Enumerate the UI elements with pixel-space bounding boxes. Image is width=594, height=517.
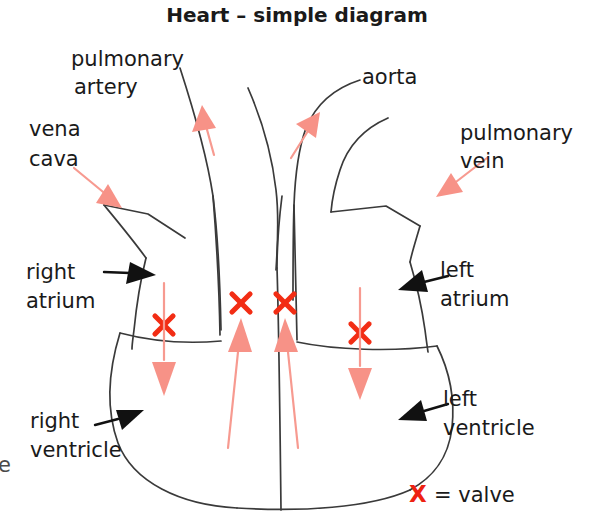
legend-valve-text: = valve — [434, 483, 515, 507]
label-right-atrium-line2: atrium — [26, 289, 95, 313]
label-vena-cava-line2: cava — [29, 147, 79, 171]
label-left-atrium-line2: atrium — [440, 287, 509, 311]
label-left-atrium-line1: left — [440, 258, 474, 282]
pulmonary-vein-vessel — [331, 206, 420, 226]
label-pointer-arrows-group — [95, 262, 448, 430]
pulmonary-artery-outer-wall — [180, 68, 221, 330]
left-ventricle-pointer-arrow-icon — [398, 400, 448, 421]
pulmonary-valve-x-icon — [232, 294, 250, 312]
valve-markers-group — [155, 294, 369, 342]
label-pulmonary-vein-line1: pulmonary — [460, 121, 573, 145]
label-aorta: aorta — [362, 65, 417, 89]
label-pulmonary-artery-line1: pulmonary — [71, 47, 184, 71]
heart-diagram-svg: Heart – simple diagram — [0, 0, 594, 517]
label-pulmonary-vein-line2: vein — [460, 149, 505, 173]
pulmonary-vein-lower-edge — [410, 226, 420, 262]
aorta-inner-wall — [331, 118, 388, 212]
cropped-edge-text-fragment: e — [0, 453, 11, 477]
aorta-flow-arrow-icon — [291, 112, 320, 158]
pulmonary-artery-flow-arrow-icon — [192, 105, 216, 155]
label-left-ventricle-line1: left — [443, 387, 477, 411]
label-right-ventricle-line1: right — [30, 409, 79, 433]
left-atrium-left-wall — [294, 205, 297, 340]
heart-diagram-canvas: Heart – simple diagram — [0, 0, 594, 517]
vena-cava-vessel — [104, 205, 185, 238]
legend-valve-x-icon: X — [409, 481, 427, 507]
label-right-ventricle-line2: ventricle — [30, 438, 122, 462]
label-vena-cava-line1: vena — [29, 117, 81, 141]
aorta-outer-wall — [293, 80, 360, 300]
page-title: Heart – simple diagram — [166, 3, 428, 27]
vena-cava-flow-arrow-icon — [74, 168, 122, 208]
label-right-atrium-line1: right — [26, 260, 75, 284]
label-left-ventricle-line2: ventricle — [443, 416, 535, 440]
pulmonary-artery-inner-wall — [248, 88, 278, 270]
right-ventricle-outflow-arrow-icon — [228, 318, 252, 448]
legend: X = valve — [409, 481, 515, 507]
right-ventricle-pointer-arrow-icon — [95, 410, 144, 430]
label-pulmonary-artery-line2: artery — [74, 75, 138, 99]
diagram-labels-group: pulmonary artery vena cava aorta pulmona… — [0, 47, 573, 477]
ventricle-apex-base — [237, 490, 410, 509]
left-ventricle-outflow-arrow-icon — [274, 318, 298, 448]
right-atrium-pointer-arrow-icon — [104, 262, 156, 284]
